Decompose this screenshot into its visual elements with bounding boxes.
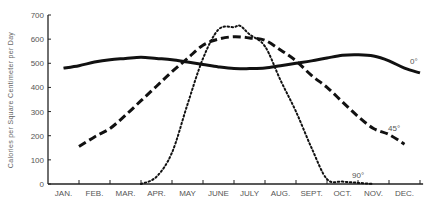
x-tick-label: APR. <box>147 189 166 198</box>
y-tick-label: 500 <box>31 59 45 68</box>
series-line-90-degrees <box>141 25 374 184</box>
x-tick-label: AUG. <box>271 189 291 198</box>
x-tick-label: NOV. <box>364 189 383 198</box>
series-line-45-degrees <box>79 37 405 147</box>
x-tick-label: JAN. <box>55 189 72 198</box>
x-tick-label: MAR. <box>116 189 136 198</box>
y-tick-label: 700 <box>31 11 45 20</box>
label-0-degrees: 0° <box>410 57 418 66</box>
y-axis-title: Calories per Square Centimeter per Day <box>7 32 15 168</box>
x-tick-label: FEB. <box>86 189 104 198</box>
label-90-degrees: 90° <box>352 171 364 180</box>
series-lines <box>64 25 421 184</box>
x-tick-label: MAY <box>179 189 196 198</box>
series-line-0-degrees <box>64 55 421 73</box>
x-tick-label: DEC. <box>395 189 414 198</box>
x-tick-label: SEPT. <box>300 189 322 198</box>
y-tick-label: 200 <box>31 132 45 141</box>
solar-radiation-chart: 0100200300400500600700 JAN.FEB.MAR.APR.M… <box>0 0 435 207</box>
y-tick-label: 600 <box>31 35 45 44</box>
y-tick-label: 0 <box>40 180 45 189</box>
x-tick-label: JUNE <box>208 189 229 198</box>
y-tick-label: 300 <box>31 108 45 117</box>
x-tick-label: OCT. <box>333 189 351 198</box>
y-tick-label: 100 <box>31 156 45 165</box>
x-tick-label: JULY <box>240 189 260 198</box>
y-axis: 0100200300400500600700 <box>31 11 51 189</box>
y-tick-label: 400 <box>31 83 45 92</box>
label-45-degrees: 45° <box>388 124 400 133</box>
